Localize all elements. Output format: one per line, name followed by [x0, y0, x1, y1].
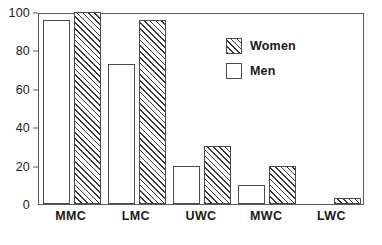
bar-mmc-women — [74, 12, 101, 204]
x-axis: MMCLMCUWCMWCLWC — [38, 207, 364, 237]
y-tick-label: 60 — [16, 84, 30, 97]
y-axis: 020406080100 — [0, 0, 38, 245]
bar-mmc-men — [43, 20, 70, 204]
x-tick-label-uwc: UWC — [186, 209, 217, 223]
bar-uwc-men — [173, 166, 200, 204]
bar-uwc-women — [204, 146, 231, 204]
bar-lmc-women — [139, 20, 166, 204]
legend-label-men: Men — [250, 64, 276, 78]
legend-label-women: Women — [250, 39, 296, 53]
x-tick-label-lmc: LMC — [122, 209, 150, 223]
y-tick-label: 0 — [23, 199, 30, 212]
legend-swatch-women — [226, 38, 242, 54]
y-tick-label: 40 — [16, 122, 30, 135]
y-tick-label: 80 — [16, 45, 30, 58]
x-tick-label-mmc: MMC — [55, 209, 86, 223]
bar-lmc-men — [108, 64, 135, 204]
legend-item-men: Men — [226, 63, 322, 79]
bar-lwc-women — [334, 198, 361, 204]
y-tick-label: 100 — [9, 7, 30, 20]
legend-swatch-men — [226, 63, 242, 79]
chart-legend: WomenMen — [226, 38, 322, 88]
x-tick-label-mwc: MWC — [250, 209, 282, 223]
bar-chart: 020406080100 MMCLMCUWCMWCLWC WomenMen — [0, 0, 382, 245]
legend-item-women: Women — [226, 38, 322, 54]
x-tick-label-lwc: LWC — [317, 209, 346, 223]
bar-mwc-men — [238, 185, 265, 204]
bar-mwc-women — [269, 166, 296, 204]
y-tick-label: 20 — [16, 160, 30, 173]
